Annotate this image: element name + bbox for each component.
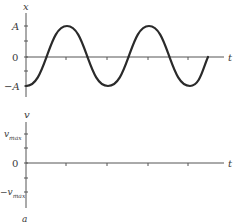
bottom-ytick-label-zero: 0 bbox=[12, 158, 18, 169]
bottom-x-axis-label: t bbox=[228, 158, 233, 169]
top-ytick-label-zero: 0 bbox=[12, 52, 18, 63]
bottom-y-axis-label: v bbox=[24, 109, 30, 120]
top-ytick-label-A: A bbox=[11, 21, 19, 32]
velocity-chart: v t vmax 0 −vmax bbox=[0, 109, 233, 208]
bottom-ytick-label-vmax: vmax bbox=[4, 129, 22, 141]
top-y-axis-label: x bbox=[23, 1, 29, 12]
bottom-ytick-label-negvmax: −vmax bbox=[0, 187, 26, 199]
top-ytick-label-negA: −A bbox=[4, 81, 20, 92]
acceleration-y-axis-label: a bbox=[22, 214, 27, 223]
position-chart: x t A 0 −A bbox=[4, 1, 233, 97]
top-x-axis-label: t bbox=[228, 52, 233, 63]
chart-canvas: x t A 0 −A v t vmax 0 −vmax bbox=[0, 0, 236, 223]
position-curve bbox=[26, 26, 208, 86]
